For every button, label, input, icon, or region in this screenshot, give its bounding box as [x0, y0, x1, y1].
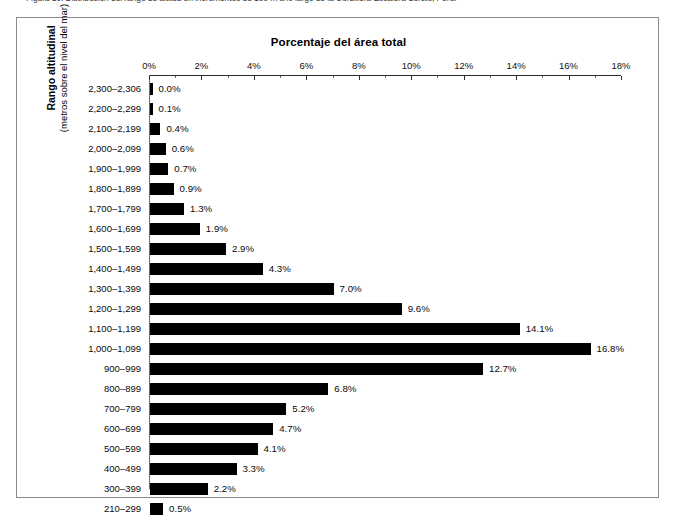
bar-row: 300–3992.2% — [150, 479, 622, 499]
x-tick-minor — [280, 76, 281, 78]
bar-row: 1,800–1,8990.9% — [150, 179, 622, 199]
category-label: 600–699 — [104, 422, 141, 435]
bar — [150, 223, 200, 235]
bar-value-label: 4.7% — [279, 422, 301, 435]
x-tick-minor — [228, 76, 229, 78]
bar-value-label: 0.7% — [174, 162, 196, 175]
category-label: 1,600–1,699 — [88, 222, 141, 235]
bar-row: 1,900–1,9990.7% — [150, 159, 622, 179]
x-tick-minor — [542, 76, 543, 78]
x-tick-label: 10% — [402, 60, 421, 71]
bar-row: 1,600–1,6991.9% — [150, 219, 622, 239]
category-label: 2,100–2,199 — [88, 122, 141, 135]
bar — [150, 503, 163, 515]
bar — [150, 123, 160, 135]
bar-value-label: 12.7% — [489, 362, 516, 375]
bar-value-label: 1.9% — [206, 222, 228, 235]
bar-value-label: 4.1% — [264, 442, 286, 455]
bar — [150, 243, 226, 255]
bar-value-label: 0.1% — [159, 102, 181, 115]
bar-row: 1,200–1,2999.6% — [150, 299, 622, 319]
category-label: 900–999 — [104, 362, 141, 375]
category-label: 500–599 — [104, 442, 141, 455]
bar — [150, 443, 258, 455]
bar-value-label: 2.2% — [214, 482, 236, 495]
x-tick-label: 14% — [507, 60, 526, 71]
bar — [150, 203, 184, 215]
bar — [150, 323, 520, 335]
category-label: 2,200–2,299 — [88, 102, 141, 115]
bar — [150, 143, 166, 155]
x-tick-label: 2% — [195, 60, 209, 71]
bar-row: 2,100–2,1990.4% — [150, 119, 622, 139]
y-axis-title-line1: Rango altitudinal — [45, 0, 58, 168]
bar — [150, 303, 402, 315]
category-label: 1,000–1,099 — [88, 342, 141, 355]
category-label: 800–899 — [104, 382, 141, 395]
bar-value-label: 9.6% — [408, 302, 430, 315]
category-label: 300–399 — [104, 482, 141, 495]
plot-area: 0%2%4%6%8%10%12%14%16%18% 2,300–2,3060.0… — [149, 75, 621, 489]
bar-value-label: 0.9% — [180, 182, 202, 195]
bar — [150, 363, 483, 375]
category-label: 1,400–1,499 — [88, 262, 141, 275]
x-tick-label: 4% — [247, 60, 261, 71]
bar — [150, 383, 328, 395]
bar-row: 1,500–1,5992.9% — [150, 239, 622, 259]
bar-row: 500–5994.1% — [150, 439, 622, 459]
bar-row: 400–4993.3% — [150, 459, 622, 479]
bar-row: 2,000–2,0990.6% — [150, 139, 622, 159]
bar-row: 2,300–2,3060.0% — [150, 79, 622, 99]
category-label: 1,700–1,799 — [88, 202, 141, 215]
bar — [150, 343, 591, 355]
bar-value-label: 2.9% — [232, 242, 254, 255]
bar-value-label: 5.2% — [292, 402, 314, 415]
bar — [150, 403, 286, 415]
category-label: 1,300–1,399 — [88, 282, 141, 295]
y-axis-title-line2: (metros sobre el nivel del mar) — [58, 0, 70, 168]
bar-value-label: 14.1% — [526, 322, 553, 335]
x-tick-minor — [595, 76, 596, 78]
category-label: 210–299 — [104, 502, 141, 515]
x-tick-label: 8% — [352, 60, 366, 71]
bar — [150, 103, 153, 115]
bar — [150, 423, 273, 435]
bar — [150, 463, 237, 475]
bar-value-label: 3.3% — [243, 462, 265, 475]
x-tick-minor — [175, 76, 176, 78]
bar-value-label: 6.8% — [334, 382, 356, 395]
bar-row: 900–99912.7% — [150, 359, 622, 379]
category-label: 1,100–1,199 — [88, 322, 141, 335]
bar-value-label: 0.5% — [169, 502, 191, 515]
x-tick-minor — [333, 76, 334, 78]
category-label: 1,900–1,999 — [88, 162, 141, 175]
figure-caption-text: Figura 10. Distribución del rango de alt… — [26, 0, 456, 4]
bar-row: 1,000–1,09916.8% — [150, 339, 622, 359]
bar-row: 1,100–1,19914.1% — [150, 319, 622, 339]
x-tick-minor — [385, 76, 386, 78]
bar-value-label: 7.0% — [340, 282, 362, 295]
bar-row: 2,200–2,2990.1% — [150, 99, 622, 119]
bar — [150, 83, 153, 95]
bar-row: 600–6994.7% — [150, 419, 622, 439]
bar — [150, 163, 168, 175]
category-label: 1,200–1,299 — [88, 302, 141, 315]
bar-row: 800–8996.8% — [150, 379, 622, 399]
bar-value-label: 0.4% — [166, 122, 188, 135]
x-tick-label: 12% — [454, 60, 473, 71]
category-label: 1,800–1,899 — [88, 182, 141, 195]
bar-value-label: 0.6% — [172, 142, 194, 155]
bar-value-label: 0.0% — [159, 82, 181, 95]
x-tick-label: 16% — [559, 60, 578, 71]
bar-row: 210–2990.5% — [150, 499, 622, 519]
category-label: 2,300–2,306 — [88, 82, 141, 95]
x-tick-minor — [490, 76, 491, 78]
chart-title: Porcentaje del área total — [17, 36, 660, 48]
figure-frame: Porcentaje del área total Rango altitudi… — [16, 17, 659, 498]
bar — [150, 283, 334, 295]
category-label: 2,000–2,099 — [88, 142, 141, 155]
category-label: 700–799 — [104, 402, 141, 415]
x-tick-label: 0% — [142, 60, 156, 71]
x-tick-minor — [437, 76, 438, 78]
bar-value-label: 4.3% — [269, 262, 291, 275]
